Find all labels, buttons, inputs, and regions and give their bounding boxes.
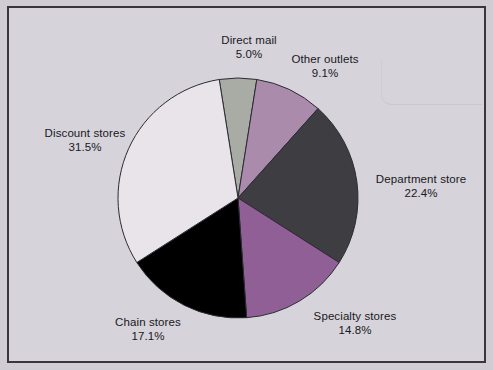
slice-label-name: Specialty stores <box>314 309 397 323</box>
slice-label-value: 14.8% <box>314 323 397 337</box>
pie-chart-figure: Direct mail 5.0% Other outlets 9.1% Depa… <box>0 0 493 370</box>
slice-label-specialty-stores: Specialty stores 14.8% <box>314 309 397 337</box>
slice-label-direct-mail: Direct mail 5.0% <box>221 33 276 61</box>
slice-label-discount-stores: Discount stores 31.5% <box>45 126 126 154</box>
slice-label-department-store: Department store 22.4% <box>376 172 466 200</box>
slice-label-value: 31.5% <box>45 140 126 154</box>
slice-label-other-outlets: Other outlets 9.1% <box>291 52 358 80</box>
slice-label-value: 5.0% <box>221 47 276 61</box>
plot-area: Direct mail 5.0% Other outlets 9.1% Depa… <box>0 0 493 370</box>
slice-label-value: 9.1% <box>291 66 358 80</box>
slice-label-value: 22.4% <box>376 186 466 200</box>
slice-label-chain-stores: Chain stores 17.1% <box>115 315 181 343</box>
slice-label-name: Direct mail <box>221 33 276 47</box>
slice-label-value: 17.1% <box>115 329 181 343</box>
slice-label-name: Other outlets <box>291 52 358 66</box>
slice-label-name: Department store <box>376 172 466 186</box>
slice-label-name: Discount stores <box>45 126 126 140</box>
slice-label-name: Chain stores <box>115 315 181 329</box>
